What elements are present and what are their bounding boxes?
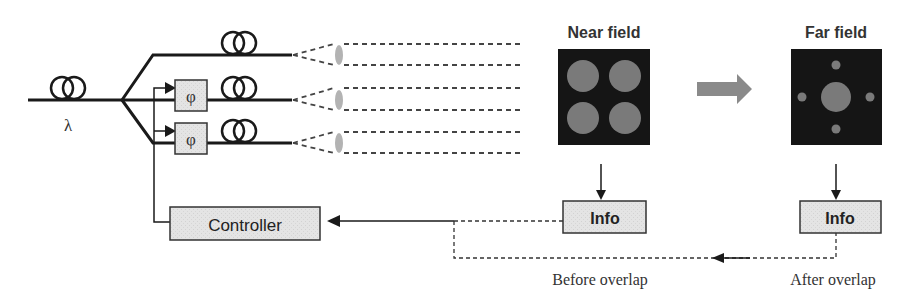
far-field-pattern (791, 49, 882, 145)
controller-box[interactable]: Controller (170, 207, 320, 240)
fiber-coil-icon (222, 120, 256, 142)
far-field-title: Far field (805, 24, 867, 41)
side-lobe (798, 93, 807, 102)
beam-paths (293, 44, 520, 153)
near-field-info-box[interactable]: Info (563, 201, 646, 233)
svg-text:φ: φ (186, 130, 196, 149)
beam-spot (567, 102, 599, 134)
beam-spot (609, 102, 641, 134)
before-overlap-caption: Before overlap (552, 271, 648, 289)
phase-modulator[interactable]: φ (175, 80, 207, 111)
collimating-lens (335, 133, 343, 153)
arrow-icon (596, 190, 606, 200)
svg-text:Info: Info (590, 210, 620, 227)
control-feedback-line (154, 88, 170, 222)
coherent-beam-combining-diagram: λ φ φ (0, 0, 914, 303)
svg-text:Controller: Controller (208, 216, 282, 235)
collimating-lens (335, 45, 343, 65)
fiber-coil-icon (222, 32, 256, 54)
fiber-coil-icon (222, 77, 256, 99)
side-lobe (832, 61, 841, 70)
arrow-icon (831, 190, 841, 200)
svg-text:φ: φ (186, 87, 196, 106)
arrow-icon (327, 215, 340, 227)
near-field-pattern (558, 49, 650, 145)
propagation-arrow-icon (697, 74, 752, 104)
side-lobe (832, 125, 841, 134)
fiber-coil-icon (51, 77, 85, 99)
svg-text:Info: Info (825, 210, 855, 227)
near-field-title: Near field (568, 24, 641, 41)
phase-modulator[interactable]: φ (175, 123, 207, 154)
collimating-lens (335, 90, 343, 110)
beam-spot (609, 60, 641, 92)
after-overlap-caption: After overlap (790, 271, 876, 289)
arrow-icon (712, 253, 724, 263)
side-lobe (866, 93, 875, 102)
far-field-info-box[interactable]: Info (800, 201, 881, 233)
wavelength-label: λ (64, 116, 73, 135)
input-fiber (28, 77, 122, 100)
beam-spot (567, 60, 599, 92)
central-lobe (821, 82, 851, 112)
